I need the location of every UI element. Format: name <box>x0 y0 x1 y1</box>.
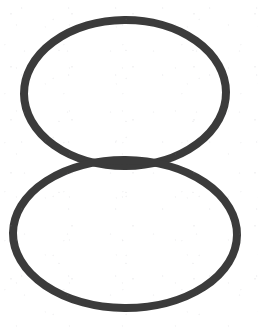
figure-eight-drawing <box>0 0 258 328</box>
drawing-canvas: A hand-drawn figure eight made of two ho… <box>0 0 258 328</box>
